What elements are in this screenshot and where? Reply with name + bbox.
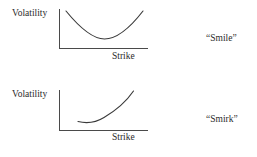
volatility-curves-figure: Volatility Strike Volatility Strike “Smi… [0, 0, 257, 157]
smirk-axes [60, 90, 149, 131]
smirk-caption: “Smirk” [206, 114, 238, 125]
smile-y-axis-label: Volatility [12, 8, 47, 19]
smile-axes [60, 9, 149, 49]
smirk-curve [78, 91, 134, 123]
smirk-y-axis-label: Volatility [12, 89, 47, 100]
smile-curve [66, 11, 143, 39]
smile-caption: “Smile” [206, 33, 237, 44]
smirk-x-axis-label: Strike [112, 132, 135, 143]
smile-x-axis-label: Strike [112, 51, 135, 62]
